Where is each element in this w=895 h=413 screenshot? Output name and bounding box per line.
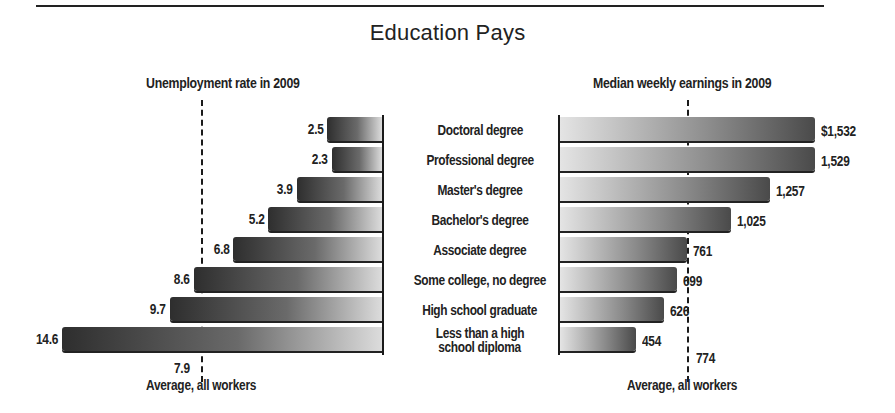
earnings-value: 1,025	[737, 213, 766, 229]
unemployment-bar	[233, 237, 382, 261]
earnings-bar	[560, 237, 687, 261]
earnings-value: $1,532	[821, 123, 856, 139]
earnings-value: 454	[642, 333, 661, 349]
unemployment-bar	[268, 207, 382, 231]
unemployment-bar	[332, 147, 382, 171]
earnings-average-value: 774	[696, 350, 715, 366]
earnings-value: 626	[670, 303, 689, 319]
chart-title: Education Pays	[0, 20, 895, 46]
earnings-bar	[560, 177, 770, 201]
unemployment-bar	[62, 327, 382, 351]
unemployment-value: 14.6	[36, 331, 58, 347]
category-label-text: Some college, no degree	[414, 273, 546, 287]
earnings-bar	[560, 117, 815, 141]
unemployment-subtitle: Unemployment rate in 2009	[146, 75, 300, 91]
category-label: Master's degree	[395, 183, 565, 197]
category-label-line2: school diploma	[439, 340, 522, 354]
unemployment-bar	[327, 117, 382, 141]
earnings-bar	[560, 327, 636, 351]
earnings-average-line	[687, 100, 689, 382]
category-label-text: Bachelor's degree	[432, 213, 529, 227]
unemployment-average-label: Average, all workers	[146, 377, 256, 393]
category-label: Less than a highschool diploma	[395, 326, 565, 354]
earnings-value: 1,257	[776, 183, 805, 199]
earnings-bar	[560, 297, 664, 321]
category-label: Some college, no degree	[395, 273, 565, 287]
earnings-bar	[560, 147, 815, 171]
unemployment-value: 2.5	[307, 121, 323, 137]
category-label: Professional degree	[395, 153, 565, 167]
earnings-value: 1,529	[821, 153, 850, 169]
unemployment-value: 2.3	[312, 151, 328, 167]
unemployment-value: 3.9	[277, 181, 293, 197]
unemployment-value: 8.6	[174, 271, 190, 287]
category-label-text: High school graduate	[423, 303, 538, 317]
unemployment-value: 9.7	[150, 301, 166, 317]
category-label: Associate degree	[395, 243, 565, 257]
earnings-bar	[560, 267, 677, 291]
unemployment-bar	[170, 297, 382, 321]
earnings-bar	[560, 207, 731, 231]
unemployment-value: 6.8	[213, 241, 229, 257]
earnings-value: 761	[693, 243, 712, 259]
earnings-value: 699	[683, 273, 702, 289]
category-label-text: Doctoral degree	[437, 123, 523, 137]
category-label-text: Associate degree	[433, 243, 526, 257]
category-label: High school graduate	[395, 303, 565, 317]
top-rule	[36, 5, 824, 7]
unemployment-bar	[194, 267, 382, 291]
earnings-subtitle: Median weekly earnings in 2009	[593, 75, 771, 91]
category-label: Doctoral degree	[395, 123, 565, 137]
earnings-average-label: Average, all workers	[627, 377, 737, 393]
category-label-text: Master's degree	[437, 183, 522, 197]
unemployment-bar	[297, 177, 382, 201]
category-label-text: Professional degree	[426, 153, 533, 167]
unemployment-value: 5.2	[248, 211, 264, 227]
category-label: Bachelor's degree	[395, 213, 565, 227]
category-label-line1: Less than a high	[436, 326, 524, 340]
unemployment-average-value: 7.9	[174, 360, 190, 376]
unemployment-baseline	[382, 115, 384, 355]
